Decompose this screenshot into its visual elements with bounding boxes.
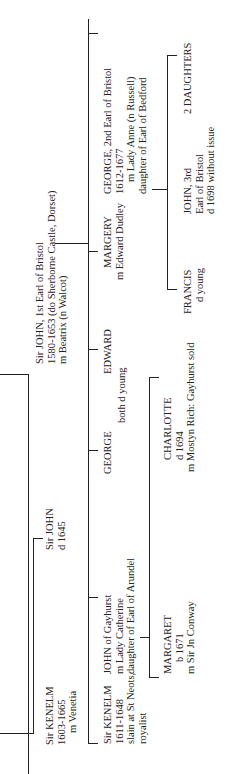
child-john-of-gayhurst: JOHN of Gayhurst m Lady Catherine daught… [102,558,137,674]
child-note: daughter of Earl of Bedford [137,68,149,194]
child-spouse: m Lady Catherine [114,558,126,674]
family-tree-diagram: Sir JOHN, 1st Earl of Bristol 1580-1653 … [0,0,237,774]
grandchild-john-3rd-earl: JOHN, 3rd Earl of Bristol d 1698 without… [182,127,217,214]
grandchild-francis: FRANCIS d young [182,268,205,314]
left-branch-horizontal-line [33,538,34,734]
child-tick-edward [88,349,98,350]
grandchild-name: FRANCIS [182,268,194,314]
grandchild-title: Earl of Bristol [194,127,206,214]
bristol-sibling-line [167,56,168,290]
grandchild-charlotte: CHARLOTTE d 1694 m Mostyn Rich: Gayhurst… [162,342,197,472]
grandchild-dates: b 1671 [174,601,186,674]
note-both-d-young: both d young [116,368,128,423]
root-dates: 1580-1653 (do Sherborne Castle, Dorset) [46,190,58,364]
grandchild-name: JOHN, 3rd [182,127,194,214]
bristol-tick-francis [167,289,177,290]
child-name: JOHN of Gayhurst [102,558,114,674]
grandchild-name: CHARLOTTE [162,342,174,472]
kenelm-sr-dates: 1603-1665 [56,686,68,745]
child-name: GEORGE, 2nd Earl of Bristol [102,68,114,194]
gayhurst-children-line [149,377,150,678]
bristol-descent-line [152,189,168,190]
child-tick-george [88,450,98,451]
child-edward: EDWARD [102,329,114,374]
grandchild-name: MARGARET [162,601,174,674]
child-george-2nd-earl: GEORGE, 2nd Earl of Bristol 1612-1677 m … [102,68,148,194]
child-dates: 1611-1648 [114,673,126,744]
child-tick-kenelm [88,743,98,744]
kenelm-sr-spouse: m Venetia [67,686,79,745]
grandchild-margaret: MARGARET b 1671 m Sir Jn Conway [162,601,197,674]
john-sr-death: d 1645 [56,508,68,550]
grandchild-spouse: m Mostyn Rich: Gayhurst sold [185,342,197,472]
child-george: GEORGE [102,431,114,474]
john-sr-name: Sir JOHN [44,508,56,550]
child-tick-john-gayhurst [88,597,98,598]
person-sir-john-d1645: Sir JOHN d 1645 [44,508,67,550]
grandchild-name: 2 DAUGHTERS [182,43,194,114]
child-tick-margery [88,251,98,252]
child-spouse: m Edward Dudley [114,203,126,280]
grandchild-dates: d 1694 [174,342,186,472]
child-name: MARGERY [102,203,114,280]
root-stem-line [28,374,29,774]
child-margery: MARGERY m Edward Dudley [102,203,125,280]
grandchild-spouse: m Sir Jn Conway [185,601,197,674]
note-text: both d young [116,368,128,423]
left-branch-tick-sir-john [33,538,43,539]
root-spouse: m Beatrix (n Walcot) [57,190,69,364]
root-name: Sir JOHN, 1st Earl of Bristol [34,190,46,364]
george-2nd-branch-start-tick [55,243,88,244]
child-tick-george-2nd [88,33,98,34]
left-branch-vertical-line [0,733,33,734]
person-sir-kenelm-1603: Sir KENELM 1603-1665 m Venetia [44,686,79,745]
grandchild-2-daughters: 2 DAUGHTERS [182,43,194,114]
grandchild-note: d young [194,268,206,314]
bristol-tick-daughters [167,55,177,56]
root-connector-line [0,374,28,375]
child-name: EDWARD [102,329,114,374]
child-note: daughter of Earl of Arundel [125,558,137,674]
gayhurst-tick-margaret [149,677,159,678]
child-name: GEORGE [102,431,114,474]
child-sir-kenelm-1611: Sir KENELM 1611-1648 slain at St Neots, … [102,673,148,744]
child-note: slain at St Neots, [125,673,137,744]
child-note: royalist [137,673,149,744]
grandchild-note: d 1698 without issue [205,127,217,214]
child-name: Sir KENELM [102,673,114,744]
george-2nd-branch-horizontal [88,34,89,244]
gayhurst-tick-charlotte [149,377,159,378]
kenelm-sr-name: Sir KENELM [44,686,56,745]
child-dates: 1612-1677 [114,68,126,194]
child-spouse: m Lady Anne (n Russell) [125,68,137,194]
root-person-sir-john-1st-earl: Sir JOHN, 1st Earl of Bristol 1580-1653 … [34,190,69,364]
